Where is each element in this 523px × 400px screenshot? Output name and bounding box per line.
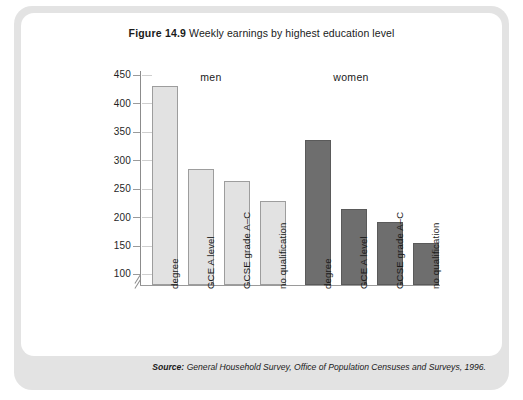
figure-outer-frame: Figure 14.9 Weekly earnings by highest e… <box>14 6 509 390</box>
x-label-men-no-qualification: no qualification <box>277 222 288 289</box>
y-tick-stub <box>142 132 152 133</box>
figure-panel: Figure 14.9 Weekly earnings by highest e… <box>21 13 502 356</box>
y-tick-mark <box>133 246 140 247</box>
x-label-women-gcse-grade-a-c: GCSE grade A–C <box>394 212 405 289</box>
source-label: Source: <box>152 362 184 372</box>
source-note: Source: General Household Survey, Office… <box>14 362 495 372</box>
y-tick-label: 400 <box>97 98 131 109</box>
y-tick-mark <box>133 75 140 76</box>
y-tick-mark <box>133 103 140 104</box>
y-tick-stub <box>142 160 152 161</box>
y-tick-mark <box>133 217 140 218</box>
y-tick-mark <box>133 160 140 161</box>
y-tick-label: 200 <box>97 212 131 223</box>
x-label-men-degree: degree <box>169 258 180 289</box>
source-text: General Household Survey, Office of Popu… <box>187 362 486 372</box>
x-label-women-no-qualification: no qualification <box>430 222 441 289</box>
y-tick-mark <box>133 189 140 190</box>
x-label-men-gcse-grade-a-c: GCSE grade A–C <box>241 212 252 289</box>
y-tick-mark <box>133 274 140 275</box>
group-label-men: men <box>171 71 251 83</box>
y-tick-stub <box>142 189 152 190</box>
y-tick-stub <box>142 246 152 247</box>
bar-men-degree[interactable] <box>152 86 178 285</box>
y-tick-stub <box>142 103 152 104</box>
x-label-men-gce-a-level: GCE A level <box>205 236 216 289</box>
group-label-women: women <box>306 71 396 83</box>
y-tick-stub <box>142 274 152 275</box>
y-tick-label: 450 <box>97 69 131 80</box>
y-tick-label: 150 <box>97 240 131 251</box>
y-tick-label: 100 <box>97 268 131 279</box>
chart-plot-area: 450 400 350 300 250 200 150 <box>21 13 502 356</box>
y-tick-stub <box>142 217 152 218</box>
y-tick-mark <box>133 132 140 133</box>
y-tick-label: 250 <box>97 183 131 194</box>
y-tick-label: 350 <box>97 126 131 137</box>
x-label-women-degree: degree <box>322 258 333 289</box>
y-tick-label: 300 <box>97 155 131 166</box>
y-tick-stub <box>142 75 152 76</box>
x-label-women-gce-a-level: GCE A level <box>358 236 369 289</box>
